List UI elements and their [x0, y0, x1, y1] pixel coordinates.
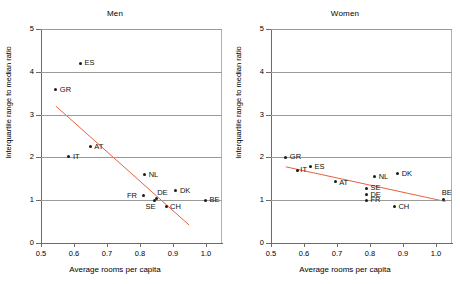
y-tick	[266, 157, 271, 158]
y-axis-women	[271, 29, 272, 244]
x-tick	[337, 243, 338, 247]
gridline-y	[271, 29, 452, 30]
y-tick-label: 4	[22, 68, 34, 76]
y-tick-label: 3	[22, 111, 34, 119]
y-tick	[36, 72, 41, 73]
x-tick-label: 0.6	[289, 250, 319, 258]
data-point-label: BE	[210, 196, 220, 204]
data-point-label: AT	[94, 143, 103, 151]
data-point-label: CH	[398, 203, 409, 211]
x-tick-label: 0.6	[59, 250, 89, 258]
y-tick-label: 5	[252, 25, 264, 33]
x-tick-label: 1.0	[421, 250, 451, 258]
data-point-label: AT	[339, 179, 348, 187]
data-point-label: BE	[442, 189, 452, 197]
y-axis-label-women: Interquartile range to median ratio	[234, 13, 243, 193]
y-tick-label: 3	[252, 111, 264, 119]
x-tick-label: 0.8	[355, 250, 385, 258]
panel-title-men: Men	[0, 9, 230, 18]
data-point-label: CH	[170, 203, 181, 211]
y-tick	[266, 29, 271, 30]
data-point	[365, 199, 368, 202]
scatter-figure: Men Interquartile range to median ratio …	[0, 0, 460, 284]
x-tick	[304, 243, 305, 247]
y-tick-label: 1	[22, 196, 34, 204]
y-tick-label: 2	[22, 153, 34, 161]
y-tick	[36, 29, 41, 30]
data-point	[296, 169, 299, 172]
x-tick-label: 0.9	[158, 250, 188, 258]
gridline-y	[41, 200, 222, 201]
x-tick	[74, 243, 75, 247]
panel-women: Women Interquartile range to median rati…	[230, 0, 460, 284]
x-tick-label: 0.7	[92, 250, 122, 258]
plot-area-men	[41, 29, 222, 243]
gridline-y	[271, 72, 452, 73]
data-point	[204, 199, 207, 202]
data-point-label: GR	[290, 153, 301, 161]
data-point-label: IT	[300, 166, 307, 174]
data-point-label: DK	[402, 170, 412, 178]
plot-area-women	[271, 29, 452, 243]
gridline-y	[41, 115, 222, 116]
data-point	[79, 62, 82, 65]
y-tick	[36, 157, 41, 158]
y-tick-label: 5	[22, 25, 34, 33]
x-tick-label: 0.5	[26, 250, 56, 258]
data-point-label: GR	[60, 86, 71, 94]
x-tick	[370, 243, 371, 247]
data-point-label: DK	[180, 187, 190, 195]
x-tick	[107, 243, 108, 247]
gridline-y	[271, 200, 452, 201]
data-point	[165, 205, 168, 208]
gridline-y	[41, 29, 222, 30]
x-tick	[271, 243, 272, 247]
x-tick-label: 1.0	[191, 250, 221, 258]
x-tick-label: 0.8	[125, 250, 155, 258]
y-tick-label: 4	[252, 68, 264, 76]
x-tick-label: 0.5	[256, 250, 286, 258]
gridline-y	[41, 72, 222, 73]
y-tick	[266, 115, 271, 116]
x-tick	[206, 243, 207, 247]
y-tick-label: 0	[22, 239, 34, 247]
x-tick	[403, 243, 404, 247]
data-point-label: IT	[73, 153, 80, 161]
data-point-label: ES	[314, 163, 324, 171]
panel-title-women: Women	[230, 9, 460, 18]
data-point-label: FR	[370, 196, 380, 204]
x-tick	[173, 243, 174, 247]
data-point-label: NL	[149, 171, 159, 179]
data-point-label: ES	[84, 59, 94, 67]
y-tick	[266, 200, 271, 201]
x-tick-label: 0.9	[388, 250, 418, 258]
y-tick	[266, 72, 271, 73]
x-axis-men	[41, 243, 223, 244]
x-axis-label-women: Average rooms per capita	[230, 265, 460, 274]
y-axis-men	[41, 29, 42, 244]
y-tick	[36, 200, 41, 201]
data-point	[393, 205, 396, 208]
x-tick	[41, 243, 42, 247]
y-axis-label-men: Interquartile range to median ratio	[4, 13, 13, 193]
x-tick-label: 0.7	[322, 250, 352, 258]
data-point-label: SE	[146, 203, 156, 211]
x-axis-label-men: Average rooms per capita	[0, 265, 230, 274]
data-point-label: DE	[157, 189, 167, 197]
y-tick	[36, 115, 41, 116]
y-tick-label: 2	[252, 153, 264, 161]
y-tick-label: 1	[252, 196, 264, 204]
x-tick	[140, 243, 141, 247]
data-point-label: NL	[379, 173, 389, 181]
data-point-label: FR	[127, 192, 137, 200]
panel-men: Men Interquartile range to median ratio …	[0, 0, 230, 284]
y-tick-label: 0	[252, 239, 264, 247]
x-tick	[436, 243, 437, 247]
gridline-y	[271, 115, 452, 116]
x-axis-women	[271, 243, 453, 244]
data-point	[365, 187, 368, 190]
